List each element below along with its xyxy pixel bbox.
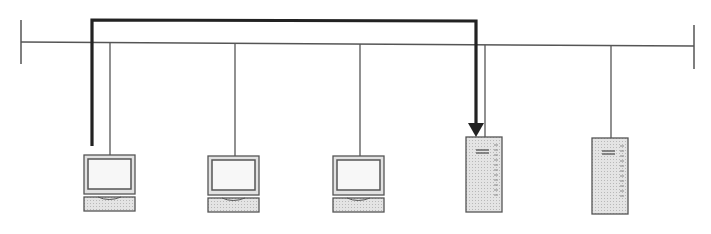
computer-icon xyxy=(208,156,259,212)
data-path-arrow xyxy=(92,20,484,146)
server-1 xyxy=(466,137,502,212)
server-2 xyxy=(592,138,628,214)
workstation-2 xyxy=(208,156,259,212)
drop-cables xyxy=(110,43,611,156)
workstation-1 xyxy=(84,155,135,211)
arrowhead-icon xyxy=(468,123,484,137)
server-tower-icon xyxy=(466,137,502,212)
server-tower-icon xyxy=(592,138,628,214)
computer-icon xyxy=(333,156,384,212)
computer-icon xyxy=(84,155,135,211)
network-bus xyxy=(21,20,694,69)
workstation-3 xyxy=(333,156,384,212)
network-diagram xyxy=(0,0,711,234)
